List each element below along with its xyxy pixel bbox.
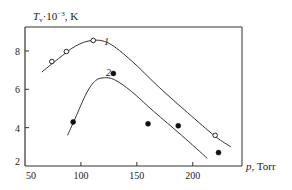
curve-2 — [68, 78, 208, 159]
data-markers — [50, 38, 221, 155]
curves — [42, 40, 231, 158]
y-tick-label: 2 — [15, 156, 20, 167]
filled-circle-marker — [111, 71, 116, 76]
chart: 501001502002468 Tv·10−3, K p, Torr 1 2 — [0, 0, 292, 190]
open-circle-marker — [213, 133, 218, 138]
curve-1-label: 1 — [104, 36, 109, 47]
filled-circle-marker — [146, 121, 151, 126]
y-tick-label: 8 — [15, 46, 20, 57]
x-tick-label: 200 — [185, 170, 200, 181]
x-axis-title: p, Torr — [245, 160, 276, 172]
y-axis-title: Tv·10−3, K — [33, 10, 78, 24]
x-tick-label: 150 — [129, 170, 144, 181]
open-circle-marker — [64, 49, 69, 54]
open-circle-marker — [50, 59, 55, 64]
plot-frame — [25, 27, 242, 166]
filled-circle-marker — [71, 119, 76, 124]
filled-circle-marker — [216, 150, 221, 155]
x-tick-label: 50 — [26, 170, 36, 181]
y-tick-label: 6 — [15, 84, 20, 95]
filled-circle-marker — [176, 123, 181, 128]
open-circle-marker — [91, 38, 96, 43]
y-tick-label: 4 — [15, 123, 20, 134]
curve-2-label: 2 — [106, 67, 111, 78]
x-tick-label: 100 — [73, 170, 88, 181]
curve-1 — [42, 40, 231, 147]
